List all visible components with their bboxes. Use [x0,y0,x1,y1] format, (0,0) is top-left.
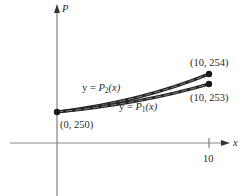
x-axis-label: x [232,137,238,148]
x-tick-label-10: 10 [203,153,214,164]
curve-label-p2: y = P2(x) [82,82,121,95]
curve-label-p1: y = P1(x) [119,101,158,114]
curve-label-p2-arg: (x) [109,82,121,94]
point-label-p2-end: (10, 254) [190,57,229,69]
curve-label-p1-arg: (x) [146,101,158,113]
point-label-start: (0, 250) [60,119,94,131]
point-start [54,109,60,115]
y-axis: P [54,3,69,196]
x-axis: x 10 [10,137,238,164]
point-p1-end [206,81,212,87]
y-axis-arrow-icon [54,4,60,13]
y-axis-label: P [61,3,69,14]
curve-label-p2-prefix: y = [82,82,98,93]
x-axis-arrow-icon [221,140,230,146]
growth-diagram: P x 10 (10, 254) (10, 253) (0, 250) y = … [0,0,252,196]
curve-label-p1-prefix: y = [119,101,135,112]
point-p2-end [206,71,212,77]
point-label-p1-end: (10, 253) [190,92,229,104]
